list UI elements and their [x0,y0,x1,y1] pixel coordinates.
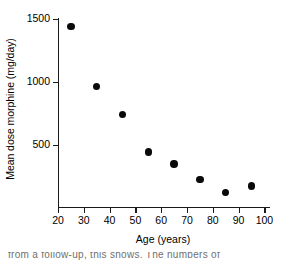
y-axis-title: Mean dose morphine (mg/day) [1,9,19,209]
y-tick-label-host-1500: 1500 [0,13,50,24]
data-point [119,111,126,118]
y-axis-title-text: Mean dose morphine (mg/day) [4,38,16,180]
y-tick-1000 [53,82,59,83]
x-tick-70 [187,207,188,213]
y-tick-label-1000: 1000 [6,76,50,87]
data-point [170,160,177,167]
data-point [222,189,229,196]
x-tick-80 [213,207,214,213]
y-tick-1500 [53,19,59,20]
data-point [93,83,100,90]
x-tick-60 [161,207,162,213]
y-tick-500 [53,145,59,146]
y-axis-line [58,18,59,208]
x-tick-40 [110,207,111,213]
y-tick-label-host-500: 500 [0,139,50,150]
scatter-chart-figure: Mean dose morphine (mg/day) 1500 1000 50… [0,0,287,261]
data-point [67,23,74,30]
page-text-fragment-text: from a follow-up, this shows. The number… [8,252,220,260]
x-tick-90 [239,207,240,213]
x-tick-30 [84,207,85,213]
x-tick-50 [135,207,136,213]
page-text-fragment: from a follow-up, this shows. The number… [0,252,287,261]
x-tick-label-100: 100 [249,214,279,226]
data-point [145,148,152,155]
y-tick-label-500: 500 [6,139,50,150]
x-tick-20 [58,207,59,213]
y-tick-label-1500: 1500 [6,13,50,24]
x-axis-title: Age (years) [58,233,268,245]
x-tick-100 [264,207,265,213]
y-tick-label-host-1000: 1000 [0,76,50,87]
data-point [248,182,255,189]
data-point [196,176,203,183]
